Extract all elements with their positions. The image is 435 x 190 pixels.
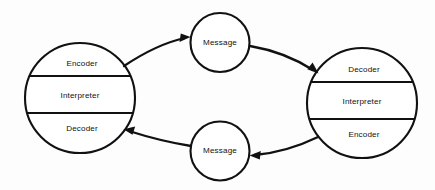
top-message-node[interactable]: Message — [191, 13, 250, 72]
left-segment-label-bottom: Decoder — [66, 124, 98, 133]
right-communicator-node[interactable]: Decoder Interpreter Encoder — [304, 48, 420, 158]
arrow-left-to-top-message — [124, 34, 191, 66]
right-segment-label-top: Decoder — [348, 65, 380, 74]
arrow-top-message-to-right — [250, 46, 319, 74]
arrowhead-into-bottom-message — [250, 151, 261, 159]
left-segment-label-top: Encoder — [66, 59, 97, 68]
left-communicator-node[interactable]: Encoder Interpreter Decoder — [22, 43, 138, 153]
communication-cycle-diagram: Encoder Interpreter Decoder Decoder Inte… — [0, 0, 435, 190]
diagram-canvas: Encoder Interpreter Decoder Decoder Inte… — [0, 0, 435, 190]
top-message-label: Message — [203, 38, 237, 47]
arrow-right-to-bottom-message — [250, 137, 319, 159]
right-segment-label-bottom: Encoder — [348, 130, 379, 139]
arrow-bottom-message-to-left — [124, 127, 192, 146]
right-segment-label-middle: Interpreter — [343, 97, 382, 106]
bottom-message-node[interactable]: Message — [191, 122, 250, 181]
bottom-message-label: Message — [203, 146, 237, 155]
arrowhead-into-right-communicator — [307, 63, 318, 74]
left-segment-label-middle: Interpreter — [61, 91, 100, 100]
arrowhead-into-top-message — [180, 34, 191, 42]
